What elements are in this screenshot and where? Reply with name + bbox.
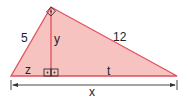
label-right-side: 12 [113,30,127,44]
triangle-diagram: 5 12 y z t x [0,0,188,97]
right-triangle [11,7,177,76]
label-altitude: y [54,32,60,46]
label-left-segment: z [25,63,31,77]
label-left-side: 5 [21,31,28,45]
label-base: x [89,85,95,97]
